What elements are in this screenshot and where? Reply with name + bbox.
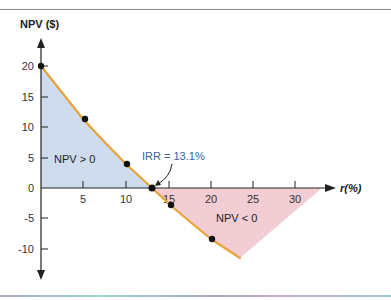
positive-npv-region — [41, 66, 152, 188]
negative-region-label: NPV < 0 — [216, 212, 257, 224]
irr-label: IRR = 13.1% — [142, 150, 205, 162]
x-tick-label: 5 — [80, 193, 86, 205]
y-axis-label: NPV ($) — [20, 18, 59, 30]
x-tick-label: 30 — [289, 193, 301, 205]
x-axis-label: r(%) — [340, 182, 362, 194]
y-tick-label: 10 — [22, 121, 34, 133]
y-tick-label: 5 — [28, 152, 34, 164]
y-tick-label: -10 — [18, 243, 34, 255]
x-axis-arrow-icon — [325, 184, 336, 192]
y-tick-label: 0 — [28, 182, 34, 194]
positive-region-label: NPV > 0 — [54, 153, 95, 165]
x-tick-label: 20 — [205, 193, 217, 205]
y-axis-arrow-up-icon — [37, 38, 45, 48]
y-axis-arrow-down-icon — [37, 270, 45, 280]
y-tick-label: 20 — [22, 60, 34, 72]
npv-chart: 20 15 10 5 0 -5 -10 5 10 15 20 25 30 NPV… — [0, 0, 391, 300]
x-tick-label: 10 — [120, 193, 132, 205]
x-tick-label: 25 — [247, 193, 259, 205]
y-tick-label: -5 — [24, 212, 34, 224]
y-tick-label: 15 — [22, 91, 34, 103]
irr-pointer-arrow-icon — [158, 164, 172, 184]
bottom-rule — [0, 295, 391, 297]
